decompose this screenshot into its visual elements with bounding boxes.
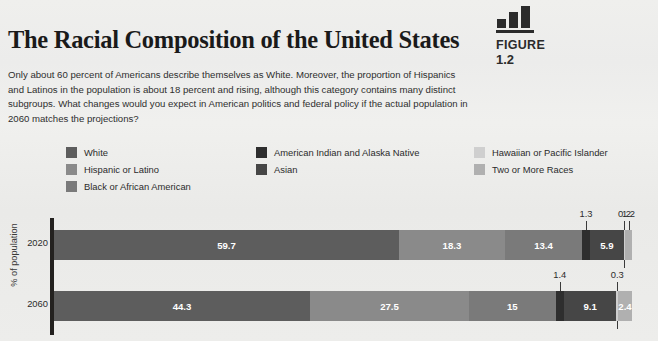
figure-label: FIGURE [496, 39, 592, 53]
bar-segment-callout: 1.4 [553, 269, 566, 280]
bar-segment: 44.3 [54, 291, 310, 321]
legend-label: American Indian and Alaska Native [274, 147, 419, 158]
figure-number: 1.2 [496, 53, 592, 67]
page-title: The Racial Composition of the United Sta… [8, 26, 459, 54]
callout-leader-line [624, 260, 625, 268]
legend-item-hawaiian-or-pacific-islander: Hawaiian or Pacific Islander [474, 144, 652, 161]
legend-swatch-icon [256, 164, 267, 175]
bar-segment: 9.1 [564, 291, 617, 321]
legend-item-hispanic-or-latino: Hispanic or Latino [66, 161, 256, 178]
bar-segment-callout: 0.3 [611, 269, 624, 280]
legend-swatch-icon [256, 147, 267, 158]
bar-segment-value: 44.3 [173, 301, 192, 312]
table-row: 59.718.313.45.9 [54, 230, 632, 260]
legend-label: White [84, 147, 108, 158]
y-tick-label-2020: 2020 [14, 237, 48, 248]
bar-segment-value: 5.9 [600, 240, 613, 251]
bar-segment-callout: 1.2 [622, 208, 635, 219]
figure-mark: FIGURE 1.2 [496, 6, 592, 67]
bar-segment-value: 2.4 [618, 301, 631, 312]
bar-segment [582, 230, 590, 260]
legend-swatch-icon [474, 147, 485, 158]
callout-leader-line [560, 282, 561, 291]
legend-label: Hispanic or Latino [84, 164, 159, 175]
bar-segment-value: 9.1 [583, 301, 596, 312]
legend-swatch-icon [66, 147, 77, 158]
y-axis-title: % of population [9, 205, 19, 305]
chart-legend: White Hispanic or Latino Black or Africa… [66, 144, 652, 195]
bar-segment-value: 15 [507, 301, 518, 312]
bar-segment [625, 230, 632, 260]
bar-segment: 13.4 [505, 230, 582, 260]
callout-leader-line [629, 221, 630, 230]
legend-item-two-or-more-races: Two or More Races [474, 161, 652, 178]
bar-segment-value: 27.5 [380, 301, 399, 312]
bar-segment [556, 291, 564, 321]
callout-leader-line [617, 282, 618, 291]
figure-rule [496, 30, 534, 33]
bar-segment: 15 [469, 291, 556, 321]
stacked-bar-chart: % of population 2020 2060 59.718.313.45.… [0, 204, 658, 341]
y-tick-label-2060: 2060 [14, 298, 48, 309]
bar-segment-callout: 1.3 [580, 208, 593, 219]
legend-item-white: White [66, 144, 256, 161]
bar-segment: 5.9 [590, 230, 624, 260]
callout-leader-line [586, 221, 587, 230]
figure-sheet: FIGURE 1.2 The Racial Composition of the… [0, 0, 658, 341]
table-row: 44.327.5159.12.4 [54, 291, 632, 321]
bar-segment-value: 13.4 [534, 240, 553, 251]
legend-swatch-icon [474, 164, 485, 175]
legend-swatch-icon [66, 164, 77, 175]
bar-segment: 59.7 [54, 230, 399, 260]
legend-item-asian: Asian [256, 161, 474, 178]
legend-swatch-icon [66, 181, 77, 192]
bar-segment-value: 59.7 [217, 240, 236, 251]
legend-label: Black or African American [84, 181, 191, 192]
callout-leader-line [617, 321, 618, 329]
figure-caption: Only about 60 percent of Americans descr… [8, 68, 474, 126]
bar-segment: 27.5 [310, 291, 469, 321]
legend-item-black-or-african-american: Black or African American [66, 178, 256, 195]
legend-label: Asian [274, 164, 297, 175]
bar-chart-icon [496, 6, 536, 28]
legend-column-2: American Indian and Alaska Native Asian [256, 144, 474, 195]
legend-label: Two or More Races [492, 164, 573, 175]
callout-leader-line [624, 221, 625, 230]
bar-segment: 2.4 [618, 291, 632, 321]
legend-item-american-indian-and-alaska-native: American Indian and Alaska Native [256, 144, 474, 161]
bar-segment: 18.3 [399, 230, 505, 260]
legend-label: Hawaiian or Pacific Islander [492, 147, 608, 158]
legend-column-1: White Hispanic or Latino Black or Africa… [66, 144, 256, 195]
bar-segment-value: 18.3 [443, 240, 462, 251]
legend-column-3: Hawaiian or Pacific Islander Two or More… [474, 144, 652, 195]
